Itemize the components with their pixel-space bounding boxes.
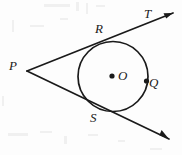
label-center-o: O	[118, 69, 127, 82]
arrowhead-lower-icon	[159, 130, 169, 139]
geometry-figure: P R S T O Q	[0, 0, 182, 155]
center-point-dot	[109, 73, 114, 78]
label-point-r: R	[95, 22, 103, 35]
label-point-p: P	[9, 59, 17, 72]
label-point-s: S	[90, 111, 97, 124]
arrowhead-upper-icon	[164, 13, 174, 19]
label-point-t: T	[144, 7, 151, 20]
label-point-q: Q	[149, 76, 158, 89]
